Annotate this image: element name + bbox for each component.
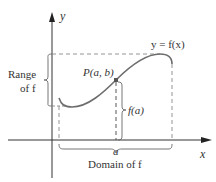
range-label-line2: of f [20, 82, 36, 94]
y-axis-arrow-icon [49, 12, 55, 22]
x-axis-arrow-icon [201, 137, 212, 143]
f-of-a-brace [118, 82, 126, 140]
function-diagram: y x y = f(x) P(a, b) Range of f f(a) a D… [0, 0, 216, 182]
point-p-marker [114, 78, 118, 82]
f-of-a-label: f(a) [128, 104, 144, 117]
domain-label: Domain of f [88, 158, 142, 170]
curve-label: y = f(x) [151, 38, 185, 51]
y-axis-label: y [59, 9, 66, 23]
x-axis-label: x [199, 147, 206, 161]
a-tick-label: a [113, 145, 119, 157]
range-label-line1: Range [8, 68, 36, 80]
range-brace [44, 54, 52, 106]
point-label: P(a, b) [82, 66, 114, 79]
